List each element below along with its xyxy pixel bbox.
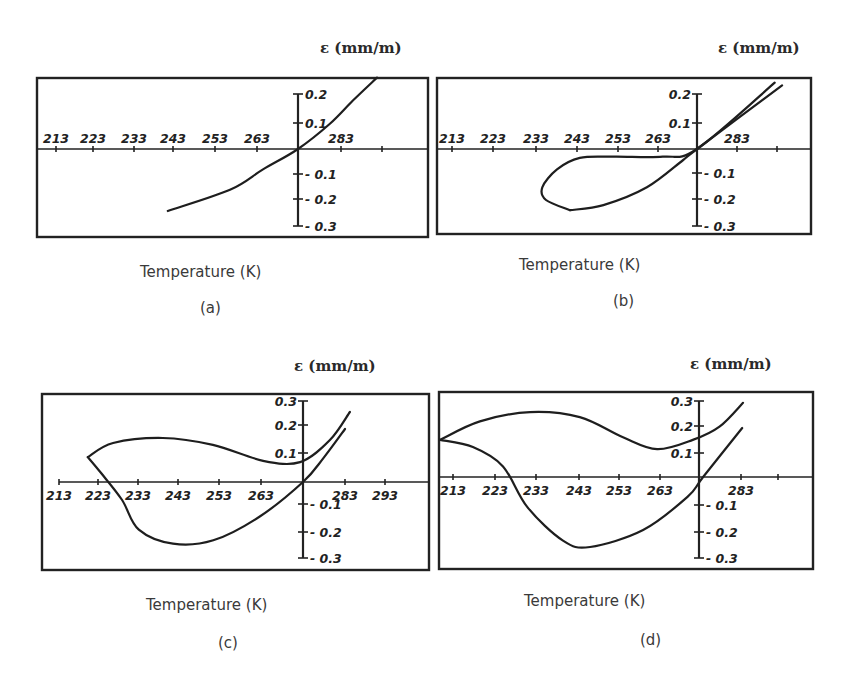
x-tick-label: 253 xyxy=(206,488,232,503)
y-tick-label: - 0.1 xyxy=(305,167,337,182)
y-tick-label: 0.2 xyxy=(671,419,693,434)
plot-area: 2132232332432532632830.20.1- 0.1- 0.2- 0… xyxy=(437,83,811,234)
x-axis-label: Temperature (K) xyxy=(518,256,640,274)
y-tick-label: - 0.2 xyxy=(310,525,342,540)
y-tick-label: - 0.1 xyxy=(704,166,736,181)
x-tick-label: 223 xyxy=(80,131,106,146)
y-tick-label: 0.3 xyxy=(671,394,693,409)
x-tick-label: 213 xyxy=(439,131,465,146)
plot-frame xyxy=(37,78,428,237)
x-tick-label: 223 xyxy=(482,483,508,498)
plot-frame xyxy=(439,392,813,569)
x-tick-label: 263 xyxy=(248,488,274,503)
y-tick-label: 0.1 xyxy=(669,116,691,131)
x-tick-label: 223 xyxy=(480,131,506,146)
y-tick-label: 0.2 xyxy=(669,87,691,102)
x-tick-label: 243 xyxy=(165,488,191,503)
y-tick-label: 0.2 xyxy=(275,418,297,433)
x-axis-label: Temperature (K) xyxy=(523,592,645,610)
x-tick-label: 283 xyxy=(328,131,354,146)
y-tick-label: - 0.3 xyxy=(706,551,738,566)
y-tick-label: 0.1 xyxy=(671,446,693,461)
x-tick-label: 243 xyxy=(564,131,590,146)
panel-b: ε (mm/m) 2132232332432532632830.20.1- 0.… xyxy=(437,39,811,310)
y-axis-label: ε (mm/m) xyxy=(320,39,402,57)
panel-c: ε (mm/m) 2132232332432532632832930.30.20… xyxy=(42,357,429,652)
x-tick-label: 233 xyxy=(121,131,147,146)
panel-tag: (c) xyxy=(218,634,238,652)
panel-tag: (b) xyxy=(613,292,634,310)
y-tick-label: - 0.3 xyxy=(704,219,736,234)
x-tick-label: 233 xyxy=(125,488,151,503)
panel-d: ε (mm/m) 2132232332432532632830.30.20.1-… xyxy=(439,355,813,649)
y-tick-label: 0.2 xyxy=(305,87,327,102)
x-tick-label: 213 xyxy=(46,488,72,503)
y-tick-label: - 0.1 xyxy=(310,497,342,512)
x-tick-label: 283 xyxy=(724,131,750,146)
y-tick-label: - 0.2 xyxy=(704,192,736,207)
x-tick-label: 253 xyxy=(202,131,228,146)
x-tick-label: 233 xyxy=(523,131,549,146)
plot-area: 2132232332432532632830.30.20.1- 0.1- 0.2… xyxy=(439,394,813,566)
data-curve-upper-branch xyxy=(88,412,350,464)
y-tick-label: - 0.2 xyxy=(706,525,738,540)
y-tick-label: 0.3 xyxy=(275,394,297,409)
x-tick-label: 213 xyxy=(43,131,69,146)
x-axis-label: Temperature (K) xyxy=(145,596,267,614)
x-tick-label: 263 xyxy=(647,483,673,498)
x-tick-label: 243 xyxy=(160,131,186,146)
x-tick-label: 293 xyxy=(372,488,398,503)
y-tick-label: - 0.3 xyxy=(310,551,342,566)
panel-tag: (a) xyxy=(200,299,221,317)
panel-tag: (d) xyxy=(640,631,661,649)
y-tick-label: - 0.1 xyxy=(706,498,738,513)
x-tick-label: 213 xyxy=(440,483,466,498)
y-tick-label: 0.1 xyxy=(275,446,297,461)
x-tick-label: 283 xyxy=(728,483,754,498)
y-tick-label: - 0.2 xyxy=(305,192,337,207)
y-axis-label: ε (mm/m) xyxy=(294,357,376,375)
y-axis-label: ε (mm/m) xyxy=(690,355,772,373)
y-tick-label: - 0.3 xyxy=(305,219,337,234)
x-axis-label: Temperature (K) xyxy=(139,263,261,281)
panel-a: ε (mm/m) 2132232332432532632830.20.1- 0.… xyxy=(37,39,428,317)
x-tick-label: 253 xyxy=(606,483,632,498)
x-tick-label: 233 xyxy=(523,483,549,498)
x-tick-label: 223 xyxy=(85,488,111,503)
x-tick-label: 243 xyxy=(566,483,592,498)
x-tick-label: 253 xyxy=(605,131,631,146)
plot-area: 2132232332432532632830.20.1- 0.1- 0.2- 0… xyxy=(37,78,428,234)
figure: ε (mm/m) 2132232332432532632830.20.1- 0.… xyxy=(0,0,850,685)
x-tick-label: 263 xyxy=(244,131,270,146)
plot-area: 2132232332432532632832930.30.20.1- 0.1- … xyxy=(46,394,429,566)
x-tick-label: 263 xyxy=(645,131,671,146)
y-axis-label: ε (mm/m) xyxy=(718,39,800,57)
